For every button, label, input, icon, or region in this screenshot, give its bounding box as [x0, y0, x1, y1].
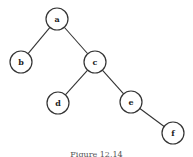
- edge-e-f: [140, 109, 164, 127]
- node-label: d: [55, 98, 61, 108]
- figure-caption: Figure 12.14: [0, 150, 193, 157]
- edge-a-b: [28, 27, 50, 53]
- edge-c-e: [102, 70, 123, 94]
- node-label: a: [54, 14, 59, 24]
- tree-node-a: a: [46, 8, 68, 30]
- tree-node-c: c: [84, 51, 106, 73]
- node-label: f: [171, 128, 175, 138]
- tree-node-e: e: [120, 91, 142, 113]
- tree-diagram: abcdef: [0, 0, 193, 157]
- node-label: c: [93, 57, 98, 67]
- tree-node-d: d: [47, 92, 69, 114]
- tree-node-f: f: [162, 122, 184, 144]
- node-label: e: [128, 97, 133, 107]
- edge-a-c: [64, 27, 87, 54]
- tree-node-b: b: [10, 51, 32, 73]
- node-label: b: [18, 57, 24, 67]
- nodes-group: abcdef: [10, 8, 184, 144]
- edge-c-d: [65, 70, 87, 95]
- edges-group: [28, 27, 164, 126]
